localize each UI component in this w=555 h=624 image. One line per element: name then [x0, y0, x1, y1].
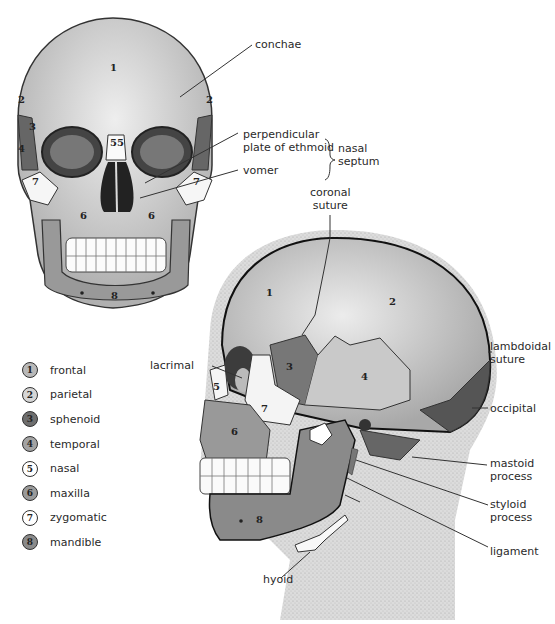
bone-legend: 1 frontal 2 parietal 3 sphenoid 4 tempor…	[22, 358, 107, 555]
legend-circle-icon: 7	[22, 510, 38, 526]
label-mastoid-line2: process	[490, 470, 534, 483]
label-lacrimal: lacrimal	[150, 359, 194, 372]
label-styloid-process: styloid process	[490, 498, 532, 524]
label-nasal-septum-line1: nasal	[338, 142, 379, 155]
front-num-parietal-left: 2	[18, 94, 25, 105]
legend-label: zygomatic	[50, 511, 107, 524]
legend-circle-icon: 2	[22, 387, 38, 403]
legend-label: maxilla	[50, 487, 90, 500]
label-perpendicular-line2: plate of ethmoid	[243, 141, 334, 154]
front-num-parietal-right: 2	[206, 94, 213, 105]
label-lambdoidal-line2: suture	[490, 353, 551, 366]
side-num-frontal: 1	[266, 287, 273, 298]
legend-circle-icon: 8	[22, 534, 38, 550]
legend-label: frontal	[50, 364, 86, 377]
legend-item-maxilla: 6 maxilla	[22, 481, 107, 506]
legend-label: sphenoid	[50, 413, 100, 426]
side-num-temporal: 4	[361, 371, 368, 382]
legend-item-parietal: 2 parietal	[22, 383, 107, 408]
label-styloid-line2: process	[490, 511, 532, 524]
label-perpendicular-plate: perpendicular plate of ethmoid	[243, 128, 334, 154]
front-num-mandible: 8	[111, 290, 118, 301]
side-num-zygomatic: 7	[261, 403, 268, 414]
side-num-maxilla: 6	[231, 426, 238, 437]
legend-circle-icon: 5	[22, 461, 38, 477]
label-occipital: occipital	[490, 402, 536, 415]
label-ligament: ligament	[490, 545, 539, 558]
label-styloid-line1: styloid	[490, 498, 532, 511]
side-num-nasal: 5	[213, 381, 220, 392]
label-coronal-suture: coronal suture	[310, 186, 351, 212]
legend-label: mandible	[50, 536, 101, 549]
legend-circle-icon: 3	[22, 411, 38, 427]
legend-item-frontal: 1 frontal	[22, 358, 107, 383]
legend-circle-icon: 4	[22, 436, 38, 452]
legend-label: parietal	[50, 388, 92, 401]
label-mastoid-line1: mastoid	[490, 457, 534, 470]
label-hyoid: hyoid	[263, 573, 293, 586]
front-num-zygomatic-right: 7	[193, 176, 200, 187]
label-lambdoidal-suture: lambdoidal suture	[490, 340, 551, 366]
side-num-mandible: 8	[256, 514, 263, 525]
label-lambdoidal-line1: lambdoidal	[490, 340, 551, 353]
label-vomer: vomer	[243, 164, 278, 177]
legend-item-nasal: 5 nasal	[22, 456, 107, 481]
front-num-frontal: 1	[110, 62, 117, 73]
legend-item-temporal: 4 temporal	[22, 432, 107, 457]
front-num-temporal: 4	[18, 143, 25, 154]
legend-item-sphenoid: 3 sphenoid	[22, 407, 107, 432]
label-mastoid-process: mastoid process	[490, 457, 534, 483]
legend-item-zygomatic: 7 zygomatic	[22, 506, 107, 531]
front-num-maxilla-right: 6	[148, 210, 155, 221]
legend-circle-icon: 6	[22, 485, 38, 501]
legend-label: nasal	[50, 462, 79, 475]
label-nasal-septum-line2: septum	[338, 155, 379, 168]
label-coronal-line2: suture	[310, 199, 351, 212]
front-num-sphenoid: 3	[29, 121, 36, 132]
side-num-sphenoid: 3	[286, 361, 293, 372]
label-perpendicular-line1: perpendicular	[243, 128, 334, 141]
label-nasal-septum: nasal septum	[338, 142, 379, 168]
front-num-zygomatic-left: 7	[32, 176, 39, 187]
label-coronal-line1: coronal	[310, 186, 351, 199]
label-conchae: conchae	[255, 38, 301, 51]
front-num-nasal-left: 5	[110, 137, 117, 148]
front-num-maxilla-left: 6	[80, 210, 87, 221]
legend-label: temporal	[50, 438, 100, 451]
legend-item-mandible: 8 mandible	[22, 530, 107, 555]
front-num-nasal-right: 5	[117, 137, 124, 148]
legend-circle-icon: 1	[22, 362, 38, 378]
side-skull	[200, 230, 497, 620]
side-num-parietal: 2	[389, 296, 396, 307]
